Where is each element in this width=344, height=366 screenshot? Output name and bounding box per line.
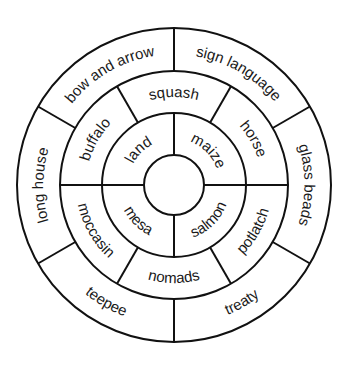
middle-divider [117, 247, 138, 283]
middle-label-nomads: nomads [147, 266, 201, 286]
outer-label-glass-beads: glass beads [296, 142, 319, 229]
outer-divider [273, 242, 310, 264]
outer-label-long-house: long house [29, 145, 51, 225]
outer-label-sign-language: sign language [195, 42, 285, 104]
outer-label-teepee: teepee [83, 283, 130, 320]
inner-label-land: land [121, 132, 155, 165]
middle-label-horse: horse [237, 117, 271, 159]
sector-dividers [38, 28, 310, 342]
middle-divider [117, 86, 138, 122]
middle-divider [210, 86, 231, 122]
center-circle [144, 155, 204, 215]
middle-label-potlatch: potlatch [233, 206, 272, 257]
sector-labels: maizelandmesasalmonhorsesquashbuffalomoc… [29, 42, 318, 319]
outer-divider [273, 107, 310, 129]
outer-label-treaty: treaty [222, 285, 262, 318]
outer-divider [38, 107, 75, 129]
outer-divider [38, 242, 75, 264]
middle-divider [210, 247, 231, 283]
inner-label-salmon: salmon [188, 199, 230, 241]
concentric-word-wheel: maizelandmesasalmonhorsesquashbuffalomoc… [0, 0, 344, 366]
inner-label-mesa: mesa [121, 202, 157, 238]
middle-label-squash: squash [147, 83, 201, 103]
outer-label-bow-and-arrow: bow and arrow [61, 42, 156, 106]
